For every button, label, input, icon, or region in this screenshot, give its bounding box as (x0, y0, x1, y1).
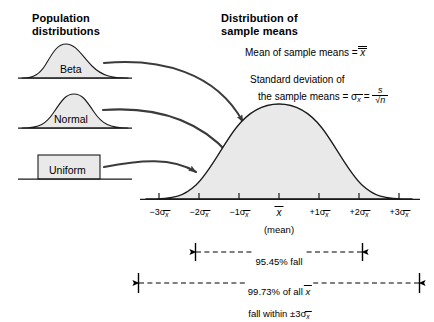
band-95-line1: 95.45% fall (255, 256, 302, 267)
tick-label-plus1sigma: +1σx (309, 207, 328, 218)
tick-subscript: x (365, 211, 368, 218)
tick-subscript: x (325, 211, 328, 218)
band-99-line2: fall within ±3 (248, 308, 300, 319)
tick-label-mean: x (277, 207, 282, 218)
formula-sd-line1: Standard deviation of (250, 74, 345, 85)
tick-sign: −3 (149, 207, 159, 217)
tick-label-plus2sigma: +2σx (349, 207, 368, 218)
formula-equals: = (361, 91, 372, 102)
fraction-denominator: √n (372, 95, 388, 105)
formula-sd-text: the sample means = (258, 91, 351, 102)
arrow-uniform-to-sampling (104, 161, 196, 172)
formula-sd-line2: the sample means = σx = s √n (258, 87, 388, 107)
axis-mean-note: (mean) (264, 224, 294, 235)
label-uniform: Uniform (49, 164, 86, 176)
tick-sign: +2 (349, 207, 359, 217)
tick-sign: +3 (389, 207, 399, 217)
arrow-normal-to-sampling (103, 109, 228, 153)
band-99-line1: 99.73% of all (248, 286, 306, 297)
tick-subscript: x (165, 211, 168, 218)
tick-label-minus3sigma: −3σx (149, 207, 168, 218)
sampling-heading: Distribution of sample means (221, 12, 298, 37)
formula-mean-text: Mean of sample means = (245, 47, 360, 58)
tick-sign: −2 (189, 207, 199, 217)
sigma-subscript: x (357, 95, 361, 104)
tick-subscript: x (205, 211, 208, 218)
tick-label-minus1sigma: −1σx (229, 207, 248, 218)
fraction-numerator: s (372, 86, 388, 95)
arrow-beta-to-sampling (104, 62, 243, 122)
population-heading: Population distributions (32, 12, 100, 37)
tick-label-plus3sigma: +3σx (389, 207, 408, 218)
label-normal: Normal (54, 113, 88, 125)
tick-label-minus2sigma: −2σx (189, 207, 208, 218)
tick-subscript: x (405, 211, 408, 218)
band-99-label: 99.73% of all x fall within ±3σx (246, 275, 312, 322)
double-bar-x-symbol: x (360, 47, 365, 58)
label-beta: Beta (60, 63, 82, 75)
sampling-distribution-curve (146, 104, 412, 199)
fraction-s-over-sqrt-n: s √n (372, 86, 388, 106)
tick-sign: −1 (229, 207, 239, 217)
x-bar-symbol: x (277, 207, 282, 218)
formula-mean-of-sample-means: Mean of sample means = x (245, 47, 365, 58)
band-99-xbar: x (305, 286, 310, 297)
tick-subscript: x (245, 211, 248, 218)
tick-sign: +1 (309, 207, 319, 217)
band-99-subscript: x (306, 313, 309, 320)
